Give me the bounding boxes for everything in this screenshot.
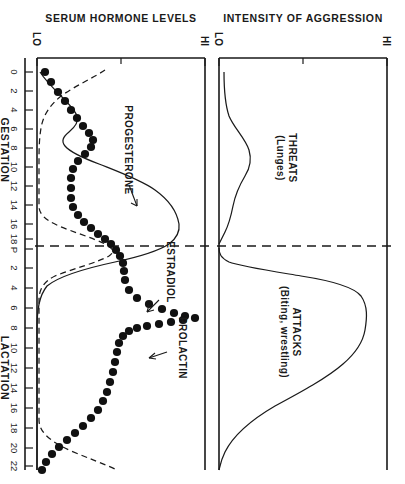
phase-label-lactation: LACTATION <box>0 336 11 401</box>
lactation-tick-18: 18 <box>9 423 20 434</box>
attacks-label-line1: ATTACKS <box>291 307 302 356</box>
lactation-tick-8: 8 <box>9 325 20 330</box>
progesterone-curve <box>37 72 179 470</box>
gestation-tick-0: 0 <box>9 69 20 74</box>
prolactin-arrow <box>149 352 167 358</box>
progesterone-label: PROGESTERONE <box>123 105 134 194</box>
figure-canvas: HI LO INTENSITY OF AGGRESSION THREATS (L… <box>0 0 405 484</box>
aggression-lo-label: LO <box>213 32 224 46</box>
threats-label-line2: (Lunges) <box>275 135 286 180</box>
rotated-figure: HI LO INTENSITY OF AGGRESSION THREATS (L… <box>0 0 405 484</box>
gestation-tick-4: 4 <box>9 107 20 112</box>
panel-aggression: HI LO INTENSITY OF AGGRESSION THREATS (L… <box>213 12 392 470</box>
lactation-tick-6: 6 <box>9 305 20 310</box>
gestation-tick-18: 18 <box>9 234 20 245</box>
threats-label-line1: THREATS <box>287 133 298 182</box>
estradiol-label: ESTRADIOL <box>165 241 176 302</box>
prolactin-label: PROLACTIN <box>177 317 188 379</box>
lactation-tick-4: 4 <box>9 285 20 290</box>
gestation-ticks <box>25 72 33 249</box>
parturition-tick-label: P <box>9 247 20 253</box>
hormones-axis-title: SERUM HORMONE LEVELS <box>45 12 196 24</box>
panel-hormones: HI LO SERUM HORMONE LEVELS <box>31 12 210 474</box>
hormones-axis-ticks <box>37 58 205 66</box>
gestation-tick-16: 16 <box>9 219 20 230</box>
attacks-curve <box>219 248 366 470</box>
lactation-tick-2: 2 <box>9 265 20 270</box>
aggression-hi-label: HI <box>381 36 392 46</box>
lactation-tick-22: 22 <box>9 461 20 472</box>
lactation-tick-20: 20 <box>9 443 20 454</box>
attacks-label-line2: (Biting, wrestling) <box>279 286 290 378</box>
aggression-panel-frame <box>219 58 387 470</box>
threats-curve <box>219 72 250 244</box>
lactation-ticks <box>25 268 33 466</box>
lactation-tick-16: 16 <box>9 403 20 414</box>
hormones-lo-label: LO <box>31 32 42 46</box>
estradiol-curve <box>39 70 117 470</box>
phase-label-gestation: GESTATION <box>0 117 11 182</box>
x-axis: 0 2 4 6 8 10 12 14 16 18 P <box>0 58 33 471</box>
gestation-tick-2: 2 <box>9 88 20 93</box>
figure-svg: HI LO INTENSITY OF AGGRESSION THREATS (L… <box>0 0 405 484</box>
aggression-axis-title: INTENSITY OF AGGRESSION <box>223 12 383 24</box>
gestation-tick-14: 14 <box>9 200 20 211</box>
aggression-axis-ticks <box>219 58 387 66</box>
hormones-hi-label: HI <box>199 36 210 46</box>
